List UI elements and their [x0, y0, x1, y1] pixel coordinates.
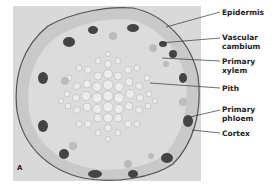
leader-lines [0, 0, 273, 194]
label-primary-xylem: Primary xylem [222, 57, 262, 75]
leader-line-epidermis [166, 12, 220, 27]
leader-line-cortex [192, 130, 220, 133]
label-primary-phloem: Primary phloem [222, 105, 262, 123]
label-pith: Pith [222, 84, 239, 93]
leader-line-pith [150, 83, 220, 88]
label-epidermis: Epidermis [222, 8, 264, 17]
leader-line-primary-phloem [190, 110, 220, 117]
label-cortex: Cortex [222, 129, 250, 138]
label-vascular-cambium: Vascular cambium [222, 33, 262, 51]
leader-line-vascular-cambium [160, 38, 220, 43]
panel-letter: A [17, 164, 22, 172]
leader-line-primary-xylem [162, 58, 220, 61]
